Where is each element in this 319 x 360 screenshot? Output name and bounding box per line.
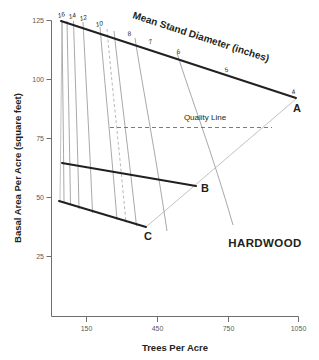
diameter-curve-group [62, 21, 233, 231]
quality-line-label: Quality Line [184, 113, 227, 122]
diameter-label-4: 4 [290, 88, 296, 96]
y-axis: 125 100 75 50 25 Basal Area Per Acre (sq… [12, 17, 52, 317]
x-ticklabel-1050: 1050 [291, 325, 307, 332]
diameter-curve-dashed [107, 29, 126, 223]
x-axis: 150 450 750 1050 Trees Per Acre [52, 317, 307, 354]
label-level-c: C [144, 230, 152, 242]
label-level-b: B [201, 182, 209, 194]
x-ticklabel-750: 750 [223, 325, 235, 332]
x-ticklabel-450: 450 [152, 325, 164, 332]
diameter-label-14: 14 [68, 11, 77, 20]
diameter-label-16: 16 [57, 10, 66, 19]
y-ticklabel-75: 75 [36, 135, 44, 142]
stocking-guide-chart: 125 100 75 50 25 Basal Area Per Acre (sq… [0, 0, 319, 360]
x-axis-title: Trees Per Acre [142, 342, 208, 353]
diameter-curve-5 [177, 53, 233, 225]
diameter-curve-14 [67, 21, 71, 205]
diameter-label-5: 5 [223, 66, 229, 74]
diameter-label-8: 8 [126, 30, 132, 38]
label-level-a: A [293, 102, 301, 114]
chart-figure: 125 100 75 50 25 Basal Area Per Acre (sq… [0, 0, 319, 360]
diameter-curve-8 [100, 27, 117, 220]
diameter-curve-7 [114, 31, 137, 226]
diameter-curve-10 [83, 22, 93, 213]
diameter-label-10: 10 [95, 19, 104, 28]
y-ticklabel-125: 125 [32, 17, 44, 24]
diameter-axis-title: Mean Stand Diameter (inches) [131, 9, 270, 64]
stocking-line-b [62, 163, 196, 186]
quality-line-group: Quality Line [110, 113, 272, 128]
x-ticklabel-150: 150 [81, 325, 93, 332]
diameter-curve-16 [62, 21, 64, 202]
species-label: HARDWOOD [228, 237, 301, 249]
diameter-label-7: 7 [147, 38, 153, 46]
y-ticklabel-25: 25 [36, 253, 44, 260]
y-ticklabel-100: 100 [32, 76, 44, 83]
y-axis-title: Basal Area Per Acre (square feet) [12, 93, 23, 243]
boundary-left-edge [60, 21, 62, 202]
y-ticklabel-50: 50 [36, 194, 44, 201]
diameter-curve-6 [135, 38, 167, 231]
diameter-label-12: 12 [79, 13, 88, 22]
diameter-label-6: 6 [175, 48, 181, 56]
diameter-curve-12 [74, 21, 80, 209]
stocking-line-c [59, 201, 146, 227]
